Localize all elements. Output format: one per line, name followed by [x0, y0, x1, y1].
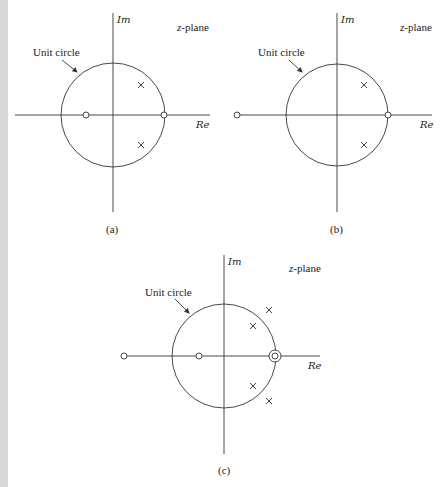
pole-marker: [250, 323, 256, 329]
unit-circle-label: Unit circle: [145, 287, 192, 298]
im-axis-label: Im: [117, 15, 130, 25]
plane-suffix: -plane: [404, 21, 431, 33]
zero-marker: [121, 353, 127, 359]
pole-marker: [361, 142, 367, 148]
caption-a: (a): [106, 224, 118, 235]
zero-marker: [196, 353, 202, 359]
unit-circle-arrow: [175, 299, 189, 313]
re-axis-label: Re: [308, 361, 321, 371]
pole-marker: [138, 82, 144, 88]
plane-suffix: -plane: [293, 262, 320, 274]
double-zero-marker-inner: [272, 353, 278, 359]
panel-b: [234, 13, 432, 212]
pole-marker: [266, 398, 272, 404]
plane-suffix: -plane: [181, 21, 208, 33]
zero-marker: [385, 112, 391, 118]
im-axis-label: Im: [228, 257, 241, 267]
unit-circle-label: Unit circle: [258, 47, 305, 58]
unit-circle-arrow: [62, 60, 77, 72]
im-axis-label: Im: [341, 15, 354, 25]
z-plane-label: z-plane: [289, 263, 321, 274]
panel-a: [15, 13, 210, 212]
z-plane-label: z-plane: [177, 22, 209, 33]
zero-marker: [83, 112, 89, 118]
pole-marker: [250, 383, 256, 389]
re-axis-label: Re: [420, 120, 433, 130]
z-plane-label: z-plane: [400, 22, 432, 33]
pole-marker: [266, 307, 272, 313]
pole-zero-diagrams: [0, 0, 444, 487]
caption-c: (c): [218, 465, 230, 476]
zero-marker: [161, 112, 167, 118]
pole-marker: [361, 82, 367, 88]
zero-marker: [234, 112, 240, 118]
panel-c: [121, 255, 320, 454]
pole-marker: [138, 142, 144, 148]
unit-circle-arrow: [289, 60, 302, 72]
re-axis-label: Re: [196, 120, 209, 130]
caption-b: (b): [330, 224, 343, 235]
unit-circle-label: Unit circle: [33, 47, 80, 58]
